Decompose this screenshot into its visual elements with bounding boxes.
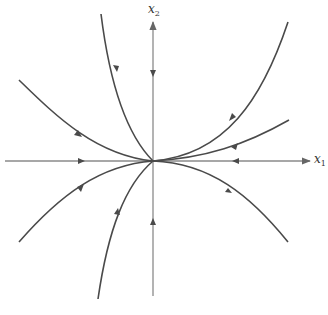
x2-label-subscript: 2 (155, 9, 160, 18)
x2-axis-label: x2 (148, 2, 160, 18)
trajectory-upper-left-steep (101, 14, 153, 161)
arrow-left-icon (231, 143, 238, 150)
trajectory-upper-right-shallow (153, 120, 289, 161)
x1-label-base: x (314, 152, 321, 166)
arrow-down-icon (113, 65, 119, 72)
phase-portrait (0, 0, 328, 315)
trajectory-upper-right-steep (153, 22, 288, 161)
arrow-down-left-icon (229, 113, 236, 121)
trajectories (19, 14, 289, 299)
trajectory-upper-left-shallow (19, 80, 153, 161)
x1-axis-label: x1 (314, 152, 326, 168)
trajectory-lower-right (153, 161, 288, 242)
arrow-up-left-icon (225, 188, 232, 193)
trajectory-lower-left-steep (98, 161, 153, 299)
arrow-down-icon (150, 70, 156, 77)
arrow-left-icon (232, 158, 239, 164)
x1-label-subscript: 1 (321, 159, 326, 168)
arrow-right-icon (78, 158, 85, 164)
trajectory-lower-left-shallow (19, 161, 153, 242)
axes (5, 22, 310, 296)
x2-label-base: x (148, 2, 155, 16)
arrow-up-icon (150, 218, 156, 225)
